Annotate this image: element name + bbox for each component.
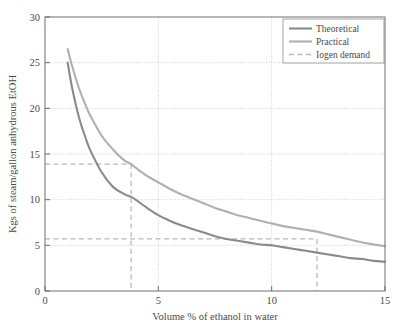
chart-figure: 0 5 10 15 20 25 30 0 5 10 15 Volume % of… <box>0 0 406 331</box>
y-tick-label-30: 30 <box>30 12 41 23</box>
y-tick-label-20: 20 <box>30 103 41 114</box>
y-tick-label-5: 5 <box>35 240 40 251</box>
x-axis-title: Volume % of ethanol in water <box>152 311 278 322</box>
y-tick-label-0: 0 <box>35 286 40 297</box>
y-tick-label-10: 10 <box>30 194 41 205</box>
legend-label-practical: Practical <box>316 37 350 47</box>
x-tick-label-5: 5 <box>156 295 161 306</box>
x-tick-label-15: 15 <box>380 295 391 306</box>
x-tick-label-0: 0 <box>42 295 47 306</box>
chart-legend: Theoretical Practical Iogen demand <box>283 19 384 63</box>
y-axis-title: Kgs of steam/gallon anhydrous EtOH <box>7 75 18 233</box>
y-tick-label-15: 15 <box>30 149 41 160</box>
x-tick-label-10: 10 <box>266 295 277 306</box>
y-tick-label-25: 25 <box>30 57 41 68</box>
legend-label-theoretical: Theoretical <box>316 24 360 34</box>
legend-label-iogen-demand: Iogen demand <box>316 50 370 60</box>
line-chart-canvas: 0 5 10 15 20 25 30 0 5 10 15 Volume % of… <box>0 0 406 331</box>
